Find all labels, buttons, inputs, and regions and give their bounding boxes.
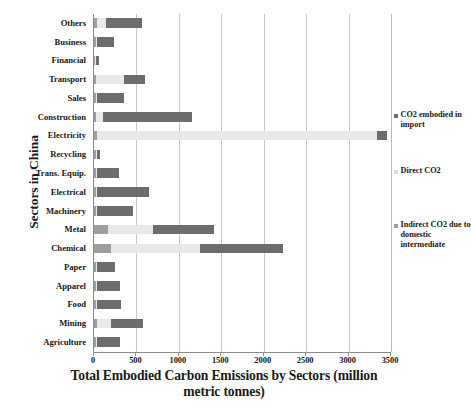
category-label: Financial	[2, 56, 86, 65]
x-axis-title-line-1: Total Embodied Carbon Emissions by Secto…	[18, 368, 430, 384]
bar-row	[94, 221, 391, 240]
x-tick-label: 500	[129, 356, 142, 365]
stacked-bar[interactable]	[94, 244, 283, 254]
stacked-bar[interactable]	[94, 187, 149, 197]
legend-swatch-icon	[394, 224, 398, 228]
category-label: Trans. Equip.	[2, 169, 86, 178]
x-tick-label: 1000	[169, 356, 186, 365]
plot-area	[93, 14, 391, 353]
stacked-bar[interactable]	[94, 18, 142, 28]
legend-item[interactable]: Indirect CO2 due to domestic intermediat…	[394, 220, 471, 250]
stacked-bar[interactable]	[94, 337, 120, 347]
category-label: Machinery	[2, 207, 86, 216]
category-label: Others	[2, 19, 86, 28]
bar-row	[94, 89, 391, 108]
bar-segment	[97, 337, 120, 347]
bar-segment	[96, 56, 99, 66]
category-label: Electricity	[2, 131, 86, 140]
category-label: Paper	[2, 263, 86, 272]
legend-swatch-icon	[394, 114, 398, 118]
stacked-bar[interactable]	[94, 37, 114, 47]
category-label: Construction	[2, 113, 86, 122]
legend-swatch-icon	[394, 170, 398, 174]
category-label: Metal	[2, 225, 86, 234]
stacked-bar[interactable]	[94, 319, 143, 329]
bar-segment	[97, 281, 120, 291]
bar-row	[94, 314, 391, 333]
x-tick-label: 2500	[297, 356, 314, 365]
bar-row	[94, 108, 391, 127]
bar-segment	[97, 319, 111, 329]
stacked-bar[interactable]	[94, 206, 133, 216]
bar-segment	[96, 112, 103, 122]
category-label: Chemical	[2, 244, 86, 253]
bar-segment	[97, 300, 121, 310]
bar-segment	[153, 225, 214, 235]
bar-row	[94, 52, 391, 71]
bar-segment	[377, 131, 387, 141]
bar-row	[94, 296, 391, 315]
bar-row	[94, 14, 391, 33]
stacked-bar[interactable]	[94, 262, 115, 272]
bar-segment	[97, 37, 114, 47]
bar-row	[94, 33, 391, 52]
bar-row	[94, 277, 391, 296]
bar-segment	[97, 18, 106, 28]
x-tick-label: 1500	[212, 356, 229, 365]
bar-row	[94, 239, 391, 258]
bar-segment	[111, 244, 200, 254]
category-label: Sales	[2, 94, 86, 103]
stacked-bar[interactable]	[94, 300, 121, 310]
category-label: Food	[2, 300, 86, 309]
bar-segment	[111, 319, 143, 329]
category-label: Electrical	[2, 188, 86, 197]
x-tick-label: 2000	[254, 356, 271, 365]
bar-segment	[103, 112, 192, 122]
legend-item[interactable]: CO2 embodied in import	[394, 110, 471, 130]
bar-segment	[97, 262, 115, 272]
stacked-bar[interactable]	[94, 56, 99, 66]
stacked-bar[interactable]	[94, 112, 192, 122]
stacked-bar[interactable]	[94, 281, 120, 291]
bar-chart: Sectors in China OthersBusinessFinancial…	[0, 0, 471, 409]
legend-label: CO2 embodied in import	[401, 110, 471, 130]
x-axis-title-line-2: metric tonnes)	[18, 384, 430, 400]
bar-row	[94, 164, 391, 183]
bar-segment	[97, 206, 133, 216]
gridline-3500	[391, 14, 392, 352]
bar-row	[94, 145, 391, 164]
x-tick-label: 3500	[382, 356, 399, 365]
category-label: Recycling	[2, 150, 86, 159]
bar-segment	[94, 244, 111, 254]
stacked-bar[interactable]	[94, 225, 214, 235]
legend-label: Indirect CO2 due to domestic intermediat…	[401, 220, 471, 250]
bar-segment	[97, 187, 149, 197]
bar-segment	[94, 225, 108, 235]
stacked-bar[interactable]	[94, 131, 387, 141]
bar-row	[94, 202, 391, 221]
stacked-bar[interactable]	[94, 168, 119, 178]
bar-segment	[106, 18, 142, 28]
x-tick-label: 0	[91, 356, 95, 365]
bar-segment	[108, 225, 153, 235]
bar-row	[94, 70, 391, 89]
bar-row	[94, 258, 391, 277]
bar-segment	[97, 131, 377, 141]
legend-item[interactable]: Direct CO2	[394, 166, 471, 176]
category-label: Apparel	[2, 282, 86, 291]
category-label: Transport	[2, 75, 86, 84]
category-axis-labels: OthersBusinessFinancialTransportSalesCon…	[6, 14, 90, 352]
bar-row	[94, 183, 391, 202]
bar-segment	[96, 75, 124, 85]
stacked-bar[interactable]	[94, 93, 124, 103]
bar-segment	[97, 93, 124, 103]
stacked-bar[interactable]	[94, 75, 145, 85]
legend-label: Direct CO2	[401, 166, 441, 176]
x-axis-title: Total Embodied Carbon Emissions by Secto…	[18, 368, 430, 400]
bar-row	[94, 333, 391, 352]
stacked-bar[interactable]	[94, 150, 100, 160]
category-label: Agriculture	[2, 338, 86, 347]
category-label: Business	[2, 38, 86, 47]
category-label: Mining	[2, 319, 86, 328]
x-tick-label: 3000	[339, 356, 356, 365]
